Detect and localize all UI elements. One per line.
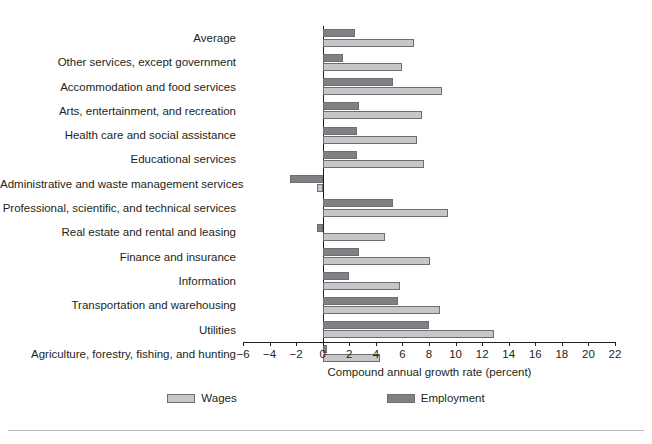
bar-wages [323, 306, 440, 314]
bar-group [243, 123, 615, 147]
category-label: Average [0, 26, 236, 50]
category-label: Arts, entertainment, and recreation [0, 99, 236, 123]
x-tick-label: −2 [281, 348, 311, 360]
bar-group [243, 245, 615, 269]
bar-wages [323, 330, 494, 338]
legend-item-employment: Employment [387, 392, 485, 404]
x-tick-label: 14 [494, 348, 524, 360]
bar-employment [323, 54, 343, 62]
x-tick [296, 342, 297, 346]
bar-employment [323, 78, 393, 86]
category-label: Accommodation and food services [0, 75, 236, 99]
x-tick [323, 342, 324, 346]
bar-employment [323, 151, 358, 159]
category-axis-labels: Average Other services, except governmen… [0, 26, 236, 342]
bar-group [243, 269, 615, 293]
legend-label-wages: Wages [201, 392, 236, 404]
chart-legend: Wages Employment [0, 392, 652, 404]
x-tick-label: 10 [441, 348, 471, 360]
category-label: Information [0, 269, 236, 293]
bar-wages [323, 282, 400, 290]
bar-employment [290, 175, 323, 183]
x-axis-ticks: −6−4−20246810121416182022 [243, 342, 616, 364]
bar-wages [323, 111, 423, 119]
bar-group [243, 50, 615, 74]
footer-divider [8, 430, 644, 431]
x-tick-label: −4 [255, 348, 285, 360]
bar-group [243, 147, 615, 171]
x-tick-label: 18 [547, 348, 577, 360]
bar-wages [323, 233, 385, 241]
bar-wages [323, 87, 443, 95]
x-tick [588, 342, 589, 346]
x-tick-label: 16 [520, 348, 550, 360]
x-tick-label: 4 [361, 348, 391, 360]
x-tick [615, 342, 616, 346]
category-label: Administrative and waste management serv… [0, 172, 236, 196]
bar-employment [323, 29, 355, 37]
x-tick-label: 2 [334, 348, 364, 360]
bar-employment [323, 102, 359, 110]
bar-employment [323, 297, 399, 305]
x-tick [482, 342, 483, 346]
category-label: Transportation and warehousing [0, 293, 236, 317]
category-label: Real estate and rental and leasing [0, 220, 236, 244]
chart-figure: Average Other services, except governmen… [0, 0, 652, 444]
category-label: Health care and social assistance [0, 123, 236, 147]
legend-item-wages: Wages [167, 392, 236, 404]
bar-group [243, 220, 615, 244]
bar-employment [317, 224, 322, 232]
bar-group [243, 318, 615, 342]
bar-wages [323, 136, 417, 144]
bar-wages [323, 209, 448, 217]
bar-wages [323, 63, 403, 71]
x-tick-label: −6 [228, 348, 258, 360]
bar-wages [323, 39, 415, 47]
category-label: Utilities [0, 318, 236, 342]
x-tick [562, 342, 563, 346]
category-label: Other services, except government [0, 50, 236, 74]
x-tick [456, 342, 457, 346]
x-tick [535, 342, 536, 346]
bar-employment [323, 127, 358, 135]
bar-employment [323, 321, 429, 329]
x-tick [402, 342, 403, 346]
legend-label-employment: Employment [421, 392, 485, 404]
x-tick [376, 342, 377, 346]
bar-employment [323, 199, 393, 207]
category-label: Finance and insurance [0, 245, 236, 269]
x-tick [509, 342, 510, 346]
bar-group [243, 99, 615, 123]
x-tick-label: 12 [467, 348, 497, 360]
bar-group [243, 196, 615, 220]
category-label: Agriculture, forestry, fishing, and hunt… [0, 342, 236, 366]
wages-swatch-icon [167, 394, 195, 403]
employment-swatch-icon [387, 394, 415, 403]
x-tick-label: 6 [387, 348, 417, 360]
category-label: Educational services [0, 147, 236, 171]
bar-wages [323, 160, 424, 168]
bar-group [243, 293, 615, 317]
x-tick [349, 342, 350, 346]
bar-group [243, 26, 615, 50]
category-label: Professional, scientific, and technical … [0, 196, 236, 220]
bar-wages [317, 184, 322, 192]
x-tick-label: 20 [573, 348, 603, 360]
plot-area [243, 26, 615, 342]
x-tick [429, 342, 430, 346]
x-tick-label: 8 [414, 348, 444, 360]
bar-group [243, 75, 615, 99]
bar-employment [323, 248, 359, 256]
x-tick-label: 0 [308, 348, 338, 360]
x-tick [270, 342, 271, 346]
x-axis-title: Compound annual growth rate (percent) [243, 366, 616, 378]
x-tick [243, 342, 244, 346]
x-tick-label: 22 [600, 348, 630, 360]
bar-group [243, 172, 615, 196]
bar-wages [323, 257, 431, 265]
bar-employment [323, 272, 350, 280]
bar-groups [243, 26, 615, 366]
